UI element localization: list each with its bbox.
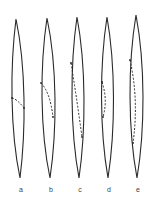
endpoint-dot	[132, 142, 134, 144]
spindle-d: d	[101, 17, 113, 193]
endpoint-dot	[70, 62, 72, 64]
spindle-outline	[102, 17, 114, 178]
endpoint-dot	[11, 97, 13, 99]
dashed-path	[102, 82, 105, 117]
endpoint-dot	[23, 107, 25, 109]
spindle-e: e	[129, 15, 143, 193]
dashed-path	[12, 98, 24, 108]
spindle-outline	[42, 18, 55, 178]
spindle-outline	[72, 17, 84, 178]
spindle-label: b	[49, 186, 53, 193]
spindle-outline	[12, 19, 24, 178]
spindle-label: c	[78, 186, 82, 193]
spindle-label: e	[136, 186, 140, 193]
endpoint-dot	[52, 116, 54, 118]
spindle-a: a	[11, 19, 25, 193]
endpoint-dot	[129, 59, 131, 61]
spindle-figure: abcde	[0, 0, 148, 202]
spindle-outline	[130, 15, 143, 178]
endpoint-dot	[102, 116, 104, 118]
spindle-c: c	[70, 17, 84, 193]
endpoint-dot	[81, 136, 83, 138]
endpoint-dot	[40, 82, 42, 84]
spindle-label: a	[19, 186, 23, 193]
spindle-label: d	[107, 186, 111, 193]
spindle-b: b	[40, 18, 55, 193]
endpoint-dot	[101, 81, 103, 83]
